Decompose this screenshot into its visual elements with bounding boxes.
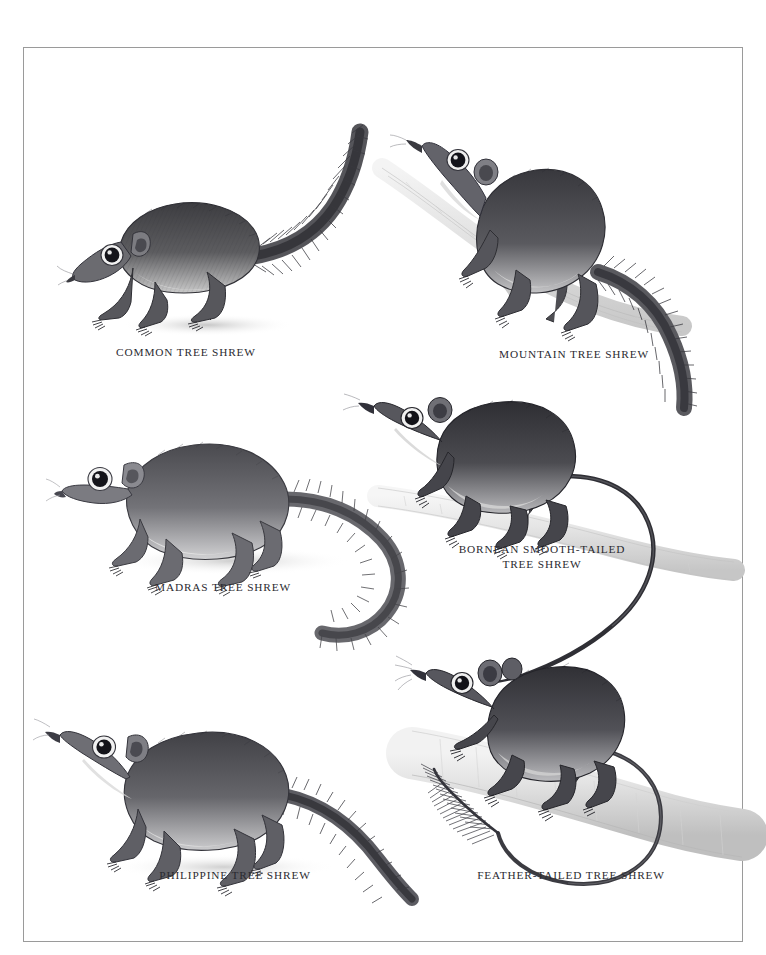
ear bbox=[126, 735, 148, 762]
eye bbox=[401, 408, 423, 429]
caption-mountain-tree-shrew: MOUNTAIN TREE SHREW bbox=[414, 347, 734, 362]
mountain-tree-shrew-drawing bbox=[382, 120, 744, 410]
eye bbox=[101, 245, 123, 266]
ear bbox=[131, 232, 150, 257]
caption-philippine-tree-shrew: PHILIPPINE TREE SHREW bbox=[72, 868, 398, 883]
ear bbox=[474, 159, 498, 185]
common-tree-shrew-drawing bbox=[57, 116, 397, 356]
caption-feather-tailed-tree-shrew: FEATHER-TAILED TREE SHREW bbox=[424, 868, 718, 883]
ear bbox=[122, 463, 144, 488]
tail bbox=[253, 125, 368, 275]
eye bbox=[93, 736, 116, 758]
eye bbox=[88, 468, 112, 491]
ear bbox=[428, 398, 452, 423]
eye bbox=[447, 150, 469, 171]
eye bbox=[451, 673, 473, 694]
caption-common-tree-shrew: COMMON TREE SHREW bbox=[24, 345, 348, 360]
caption-bornean-smooth-tailed-tree-shrew: BORNEAN SMOOTH-TAILED TREE SHREW bbox=[399, 542, 685, 572]
figure-common-tree-shrew bbox=[57, 116, 397, 356]
illustration-plate: COMMON TREE SHREW bbox=[23, 47, 743, 942]
caption-madras-tree-shrew: MADRAS TREE SHREW bbox=[60, 580, 386, 595]
tail bbox=[283, 777, 412, 903]
figure-mountain-tree-shrew bbox=[382, 120, 744, 410]
